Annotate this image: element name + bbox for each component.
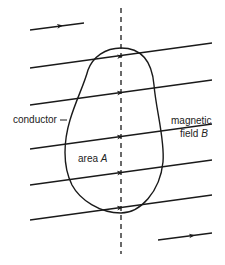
field-symbol: B [201,128,208,139]
area-label-text: area [78,153,101,164]
field-arrow-short-top [30,23,84,30]
field-label-text: field [180,128,201,139]
field-label: field B [180,128,208,139]
area-label: area A [78,153,108,164]
magnetic-label: magnetic [171,115,212,126]
field-arrow-short-bottom [158,233,212,240]
conductor-loop [65,48,163,213]
area-symbol: A [100,153,108,164]
magnetic-flux-diagram: conductor area A magnetic field B [0,0,225,265]
conductor-label: conductor [13,114,58,125]
